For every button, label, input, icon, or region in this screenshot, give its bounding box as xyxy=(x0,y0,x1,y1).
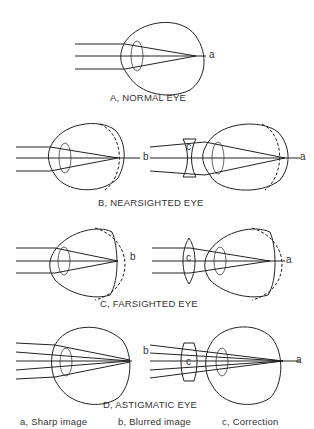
normal-eye xyxy=(75,22,206,95)
legend-c: c, Correction xyxy=(222,416,278,427)
nearsighted-corrected-eye xyxy=(150,124,300,190)
legend-a: a, Sharp image xyxy=(20,416,87,427)
farsighted-corrected-eye xyxy=(152,228,285,300)
caption-normal: A, NORMAL EYE xyxy=(110,92,186,103)
label-a: a xyxy=(209,49,215,60)
label-a: a xyxy=(296,354,302,365)
label-c: c xyxy=(186,356,191,367)
legend-b: b, Blurred image xyxy=(118,416,191,427)
caption-farsighted: C, FARSIGHTED EYE xyxy=(100,298,198,309)
label-a: a xyxy=(286,254,292,265)
caption-astigmatic: D, ASTIGMATIC EYE xyxy=(103,399,197,410)
eye-diagram xyxy=(0,0,314,429)
label-c: c xyxy=(186,252,191,263)
farsighted-eye xyxy=(16,228,125,300)
caption-nearsighted: B, NEARSIGHTED EYE xyxy=(98,197,203,208)
label-c: c xyxy=(186,141,191,152)
astigmatic-corrected-eye xyxy=(150,327,300,405)
label-b: b xyxy=(143,345,149,356)
nearsighted-eye xyxy=(16,124,140,190)
label-b: b xyxy=(143,151,149,162)
label-a: a xyxy=(300,151,306,162)
astigmatic-eye xyxy=(16,327,132,404)
label-b: b xyxy=(130,251,136,262)
